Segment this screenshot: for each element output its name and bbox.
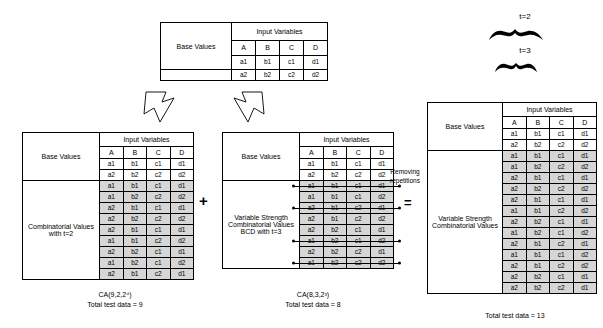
cell: a1 xyxy=(503,162,527,173)
cell: d1 xyxy=(573,217,597,228)
cell: d2 xyxy=(170,214,194,225)
left-col-c: C xyxy=(147,147,171,159)
cell: a1 xyxy=(100,181,124,192)
arrow-down-right-icon xyxy=(228,88,288,128)
mid-col-c: C xyxy=(347,147,371,159)
cell: a2 xyxy=(503,272,527,283)
cell: c2 xyxy=(347,214,371,225)
cell: b2 xyxy=(323,247,347,258)
right-col-d: D xyxy=(573,117,597,129)
cell: d2 xyxy=(573,261,597,272)
cell: d1 xyxy=(304,56,328,70)
removal-marker xyxy=(398,207,401,210)
cell: b2 xyxy=(123,214,147,225)
cell: c1 xyxy=(550,217,574,228)
cell: d1 xyxy=(573,151,597,162)
cell: a2 xyxy=(300,214,324,225)
left-col-a: A xyxy=(100,147,124,159)
left-caption-formula: CA(9,2,2⁴) xyxy=(60,290,170,300)
cell: b1 xyxy=(526,151,550,162)
cell: c2 xyxy=(147,192,171,203)
mid-table-caption: CA(8,3,2³) Total test data = 8 xyxy=(258,290,368,310)
cell: d1 xyxy=(170,247,194,258)
table-row: Variable Strength Combinatorial Values a… xyxy=(428,151,597,162)
mid-col-d: D xyxy=(370,147,394,159)
cell: b2 xyxy=(256,70,280,81)
t2-label: t=2 xyxy=(505,12,545,21)
cell: d2 xyxy=(573,250,597,261)
base-values-table: Base Values Input Variables A B C D a1 b… xyxy=(160,22,328,81)
cell: b2 xyxy=(123,170,147,181)
cell: c2 xyxy=(550,261,574,272)
right-caption-total: Total test data = 13 xyxy=(455,311,575,321)
cell: a1 xyxy=(503,129,527,140)
cell: a2 xyxy=(232,70,256,81)
top-col-c: C xyxy=(280,40,304,55)
cell: a2 xyxy=(503,239,527,250)
cell: d1 xyxy=(170,269,194,280)
cell: b1 xyxy=(323,214,347,225)
cell: b2 xyxy=(526,162,550,173)
cell: c2 xyxy=(147,269,171,280)
cell: d1 xyxy=(170,225,194,236)
cell: b1 xyxy=(323,159,347,170)
cell: c1 xyxy=(147,258,171,269)
cell: d1 xyxy=(573,195,597,206)
cell: c1 xyxy=(347,192,371,203)
cell: a1 xyxy=(100,236,124,247)
right-table-caption: Total test data = 13 xyxy=(455,311,575,321)
cell: d1 xyxy=(170,181,194,192)
cell: a1 xyxy=(232,56,256,70)
cell: c1 xyxy=(550,173,574,184)
cell: c1 xyxy=(147,181,171,192)
plus-operator: + xyxy=(199,193,208,208)
cell: c2 xyxy=(550,239,574,250)
cell: b1 xyxy=(526,250,550,261)
cell: d1 xyxy=(370,225,394,236)
cell: a2 xyxy=(503,261,527,272)
left-col-d: D xyxy=(170,147,194,159)
left-caption-total: Total test data = 9 xyxy=(60,300,170,310)
cell: d2 xyxy=(573,162,597,173)
cell: c2 xyxy=(147,170,171,181)
cell: c2 xyxy=(550,283,574,294)
cell: a2 xyxy=(300,225,324,236)
table-row-removed: Variable Strength Combinatorial Values B… xyxy=(223,181,394,192)
cell: d1 xyxy=(573,272,597,283)
cell: b1 xyxy=(123,236,147,247)
cell: b2 xyxy=(526,283,550,294)
cell: c2 xyxy=(550,206,574,217)
combinatorial-t2-table: Base Values Input Variables A B C D a1 b… xyxy=(22,132,194,280)
cell: b1 xyxy=(123,159,147,170)
cell: c1 xyxy=(347,225,371,236)
cell: c2 xyxy=(147,236,171,247)
cell: c1 xyxy=(347,159,371,170)
cell: c1 xyxy=(550,151,574,162)
cell: a1 xyxy=(503,228,527,239)
cell: d2 xyxy=(370,214,394,225)
mid-table-grid: Base Values Input Variables A B C D a1 b… xyxy=(222,132,394,269)
cell: c1 xyxy=(147,247,171,258)
left-table-grid: Base Values Input Variables A B C D a1 b… xyxy=(22,132,194,280)
cell: b1 xyxy=(123,203,147,214)
cell: d1 xyxy=(370,247,394,258)
cell: c2 xyxy=(347,247,371,258)
cell: a2 xyxy=(503,195,527,206)
cell: c1 xyxy=(550,195,574,206)
removing-repetitions-note: Removing repetitions xyxy=(380,168,430,186)
top-base-values-label: Base Values xyxy=(161,23,232,70)
cell: a2 xyxy=(503,140,527,151)
cell: b1 xyxy=(123,269,147,280)
cell: d2 xyxy=(170,170,194,181)
cell: b1 xyxy=(256,56,280,70)
cell: b2 xyxy=(526,184,550,195)
cell: c1 xyxy=(550,272,574,283)
cell: d2 xyxy=(304,70,328,81)
cell: a1 xyxy=(503,250,527,261)
cell: c2 xyxy=(347,170,371,181)
left-input-variables-header: Input Variables xyxy=(100,133,194,147)
cell: d2 xyxy=(573,206,597,217)
removal-marker xyxy=(292,262,295,265)
cell: d1 xyxy=(573,239,597,250)
cell: a2 xyxy=(300,170,324,181)
